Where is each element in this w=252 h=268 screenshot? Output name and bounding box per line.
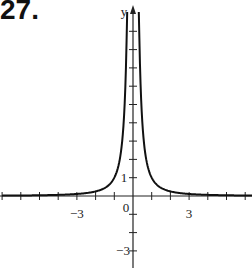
y-tick-label-1: 1: [121, 170, 128, 185]
origin-label: 0: [123, 200, 130, 215]
x-tick-label-neg3: −3: [70, 206, 84, 221]
y-axis-label: y: [121, 4, 128, 19]
tick-labels: y−3031−3: [70, 4, 192, 258]
x-tick-label-pos3: 3: [186, 206, 193, 221]
y-axis-arrow-icon: [130, 5, 136, 14]
y-tick-label-neg3: −3: [116, 243, 130, 258]
curve: [2, 12, 252, 196]
curve-right-branch: [139, 12, 252, 196]
function-graph: y−3031−3: [0, 0, 252, 268]
curve-left-branch: [2, 12, 127, 196]
